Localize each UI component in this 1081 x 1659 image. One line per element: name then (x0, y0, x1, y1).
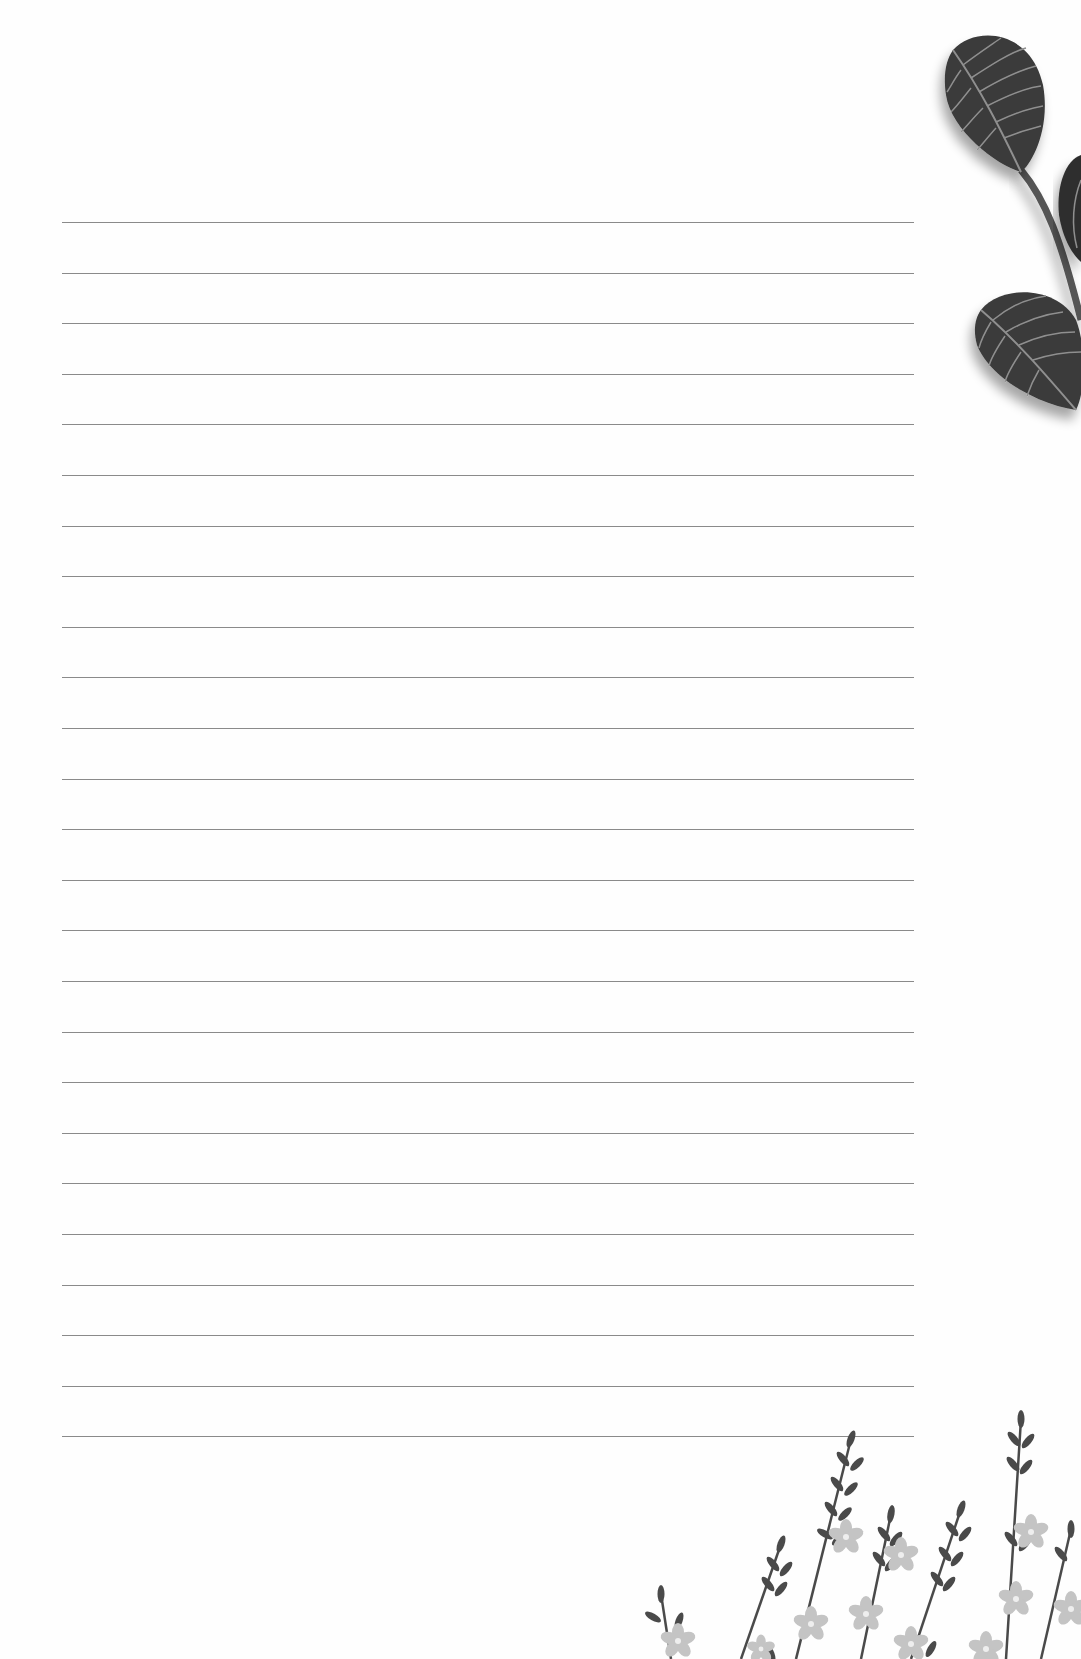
ruled-line (62, 1133, 914, 1134)
ruled-line (62, 1082, 914, 1083)
ruled-line (62, 627, 914, 628)
ruled-line (62, 1335, 914, 1336)
ruled-line (62, 526, 914, 527)
ruled-line (62, 1234, 914, 1235)
ruled-line (62, 273, 914, 274)
ruled-line (62, 677, 914, 678)
ruled-line (62, 829, 914, 830)
ruled-line (62, 1032, 914, 1033)
ruled-line (62, 424, 914, 425)
ruled-line (62, 930, 914, 931)
ruled-line (62, 981, 914, 982)
ruled-line (62, 1183, 914, 1184)
leaf-sprig-icon (881, 0, 1081, 470)
ruled-line (62, 374, 914, 375)
ruled-line (62, 576, 914, 577)
ruled-line (62, 880, 914, 881)
notepaper-page (0, 0, 1081, 1659)
wildflower-border-icon (581, 1359, 1081, 1659)
ruled-line (62, 222, 914, 223)
ruled-line (62, 323, 914, 324)
ruled-line (62, 779, 914, 780)
ruled-line (62, 728, 914, 729)
ruled-line (62, 475, 914, 476)
ruled-line (62, 1285, 914, 1286)
